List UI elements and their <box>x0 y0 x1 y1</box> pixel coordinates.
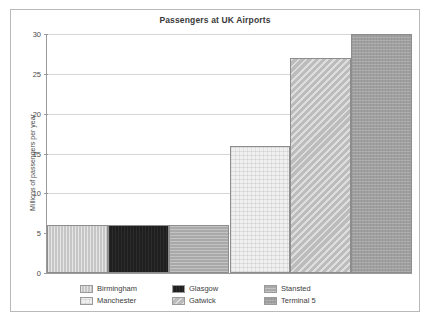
legend-label: Glasgow <box>189 284 218 293</box>
legend-item-glasgow[interactable]: Glasgow <box>172 283 258 294</box>
y-axis-tick-label: 10 <box>33 189 41 198</box>
chart-frame: Passengers at UK Airports Millions of pa… <box>10 9 420 312</box>
legend-grid: BirminghamGlasgowStanstedManchesterGatwi… <box>80 283 350 306</box>
legend-label: Manchester <box>97 296 136 305</box>
legend-swatch-icon <box>264 285 277 293</box>
plot-area: 051015202530 <box>46 34 412 274</box>
legend-item-stansted[interactable]: Stansted <box>264 283 350 294</box>
chart-legend: BirminghamGlasgowStanstedManchesterGatwi… <box>11 283 419 306</box>
legend-item-terminal-5[interactable]: Terminal 5 <box>264 295 350 306</box>
legend-label: Stansted <box>281 284 311 293</box>
legend-item-birmingham[interactable]: Birmingham <box>80 283 166 294</box>
y-axis-tick-label: 15 <box>33 149 41 158</box>
legend-swatch-icon <box>80 297 93 305</box>
legend-swatch-icon <box>264 297 277 305</box>
legend-label: Terminal 5 <box>281 296 316 305</box>
y-axis-tick-label: 5 <box>37 229 41 238</box>
legend-item-manchester[interactable]: Manchester <box>80 295 166 306</box>
legend-swatch-icon <box>80 285 93 293</box>
y-axis-tick-label: 30 <box>33 30 41 39</box>
bar-glasgow[interactable] <box>108 225 169 273</box>
y-axis-tick-label: 20 <box>33 109 41 118</box>
y-axis-tick-label: 0 <box>37 269 41 278</box>
y-axis-tick-label: 25 <box>33 69 41 78</box>
bar-stansted[interactable] <box>169 225 230 273</box>
y-axis-tick <box>44 273 48 274</box>
bar-gatwick[interactable] <box>290 58 351 273</box>
legend-label: Birmingham <box>97 284 137 293</box>
bar-birmingham[interactable] <box>47 225 108 273</box>
bar-terminal-5[interactable] <box>351 34 412 273</box>
y-axis-title: Millions of passengers per year <box>26 43 38 282</box>
legend-label: Gatwick <box>189 296 216 305</box>
chart-title: Passengers at UK Airports <box>11 15 419 25</box>
legend-item-gatwick[interactable]: Gatwick <box>172 295 258 306</box>
legend-swatch-icon <box>172 285 185 293</box>
legend-swatch-icon <box>172 297 185 305</box>
bar-manchester[interactable] <box>230 146 291 273</box>
bars-group <box>47 34 412 273</box>
